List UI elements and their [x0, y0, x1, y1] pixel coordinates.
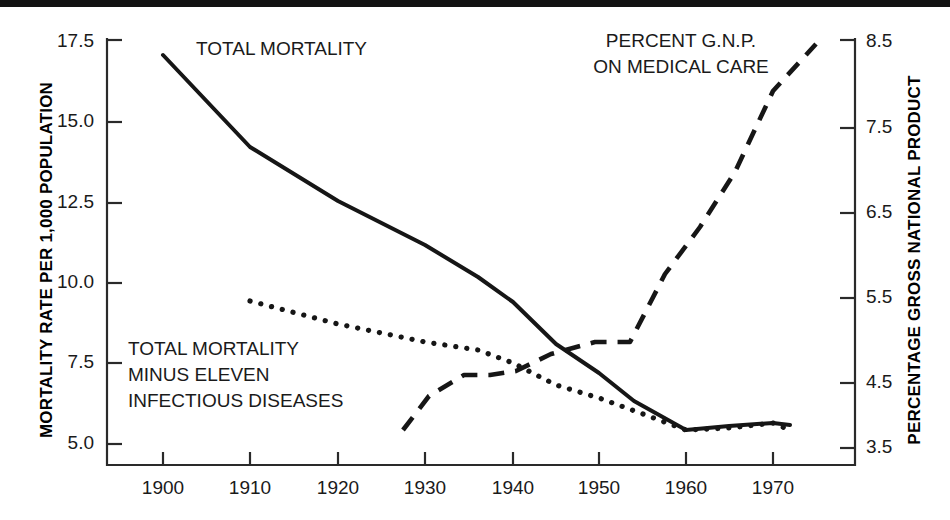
y-axis-left-ticks — [107, 40, 122, 444]
annotation-mortality-minus-infectious: TOTAL MORTALITY MINUS ELEVEN INFECTIOUS … — [128, 336, 343, 414]
chart-figure: MORTALITY RATE PER 1,000 POPULATION PERC… — [0, 0, 950, 520]
series-percent-gnp — [403, 44, 816, 430]
annotation-percent-gnp: PERCENT G.N.P. ON MEDICAL CARE — [556, 28, 806, 80]
y-axis-right-ticks — [840, 40, 855, 448]
annotation-total-mortality: TOTAL MORTALITY — [196, 36, 367, 62]
plot-area — [0, 0, 950, 520]
x-axis-ticks — [163, 452, 773, 465]
